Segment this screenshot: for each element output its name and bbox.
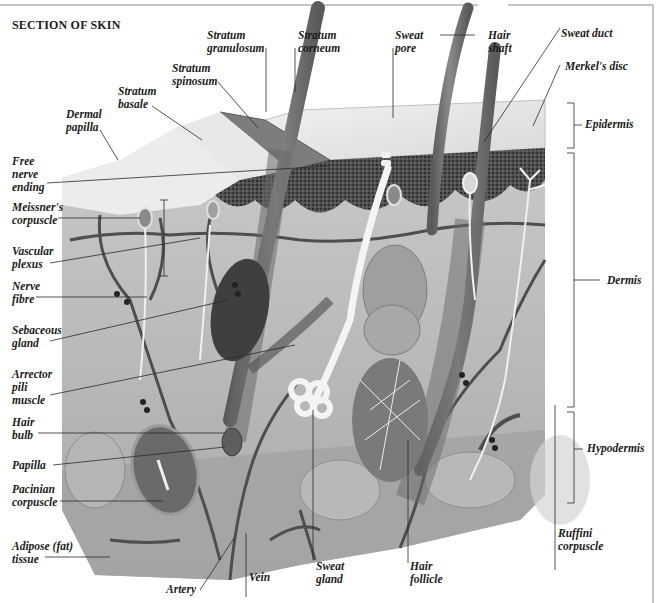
label-hair-follicle: Hair follicle	[410, 560, 443, 586]
label-sweat-gland: Sweat gland	[316, 560, 344, 586]
label-hair-shaft: Hair shaft	[488, 29, 512, 55]
label-sebaceous-gland: Sebaceous gland	[12, 324, 62, 350]
label-stratum-spinosum: Stratum spinosum	[172, 62, 217, 88]
label-ruffini-corpuscle: Ruffini corpuscle	[558, 527, 603, 553]
label-stratum-basale: Stratum basale	[118, 85, 156, 111]
label-vascular-plexus: Vascular plexus	[12, 245, 54, 271]
label-sweat-duct: Sweat duct	[561, 27, 612, 40]
label-artery: Artery	[166, 583, 196, 596]
label-sweat-pore: Sweat pore	[395, 29, 423, 55]
label-dermal-papilla: Dermal papilla	[66, 108, 102, 134]
label-hypodermis: Hypodermis	[587, 442, 645, 455]
label-arrector-pili-muscle: Arrector pili muscle	[12, 368, 52, 407]
epidermis-layers	[62, 100, 545, 215]
label-epidermis: Epidermis	[585, 118, 634, 131]
label-merkels-disc: Merkel's disc	[565, 60, 628, 73]
label-stratum-corneum: Stratum corneum	[298, 29, 340, 55]
label-meissners-corpuscle: Meissner's corpuscle	[12, 201, 63, 227]
label-hair-bulb: Hair bulb	[12, 416, 34, 442]
label-papilla: Papilla	[12, 459, 46, 472]
diagram-frame: SECTION OF SKIN Stratum granulosum Strat…	[0, 0, 662, 603]
label-nerve-fibre: Nerve fibre	[12, 280, 40, 306]
label-dermis: Dermis	[607, 274, 642, 287]
label-pacinian-corpuscle: Pacinian corpuscle	[12, 483, 57, 509]
label-free-nerve-ending: Free nerve ending	[12, 155, 45, 194]
skin-section-illustration	[0, 0, 662, 603]
label-vein: Vein	[249, 571, 270, 584]
label-adipose-tissue: Adipose (fat) tissue	[12, 540, 73, 566]
label-stratum-granulosum: Stratum granulosum	[207, 29, 265, 55]
diagram-title: SECTION OF SKIN	[12, 18, 121, 33]
